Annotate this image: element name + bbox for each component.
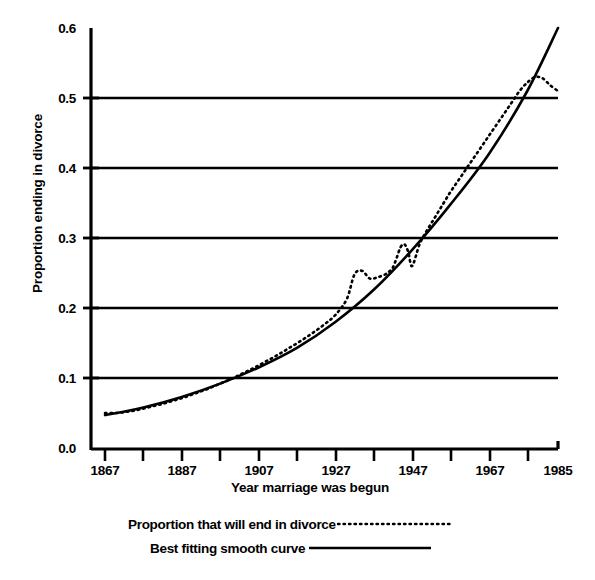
x-tick-label-1907: 1907: [229, 463, 289, 478]
gridlines: [91, 98, 558, 378]
legend-item-smooth-curve: Best fitting smooth curve: [100, 536, 530, 560]
chart-page: 0.6 0.5 0.4 0.3 0.2 0.1 0.0 1867 1887 19…: [0, 0, 595, 580]
legend-swatch-solid: [305, 542, 435, 554]
x-tick-label-1947: 1947: [383, 463, 443, 478]
series-best-fitting-smooth-curve: [105, 28, 558, 415]
legend-label-proportion: Proportion that will end in divorce: [128, 517, 336, 532]
x-tick-label-1927: 1927: [306, 463, 366, 478]
x-tick-label-1967: 1967: [460, 463, 520, 478]
x-tick-label-1867: 1867: [75, 463, 135, 478]
chart-legend: Proportion that will end in divorce Best…: [100, 512, 530, 560]
y-tick-label-0.1: 0.1: [30, 371, 76, 386]
series-proportion-will-end-in-divorce: [105, 77, 558, 413]
legend-swatch-dotted: [336, 518, 454, 530]
x-tick-label-1887: 1887: [152, 463, 212, 478]
x-axis-title: Year marriage was begun: [150, 480, 470, 495]
legend-item-proportion: Proportion that will end in divorce: [100, 512, 530, 536]
y-axis-title: Proportion ending in divorce: [30, 79, 45, 329]
legend-label-smooth-curve: Best fitting smooth curve: [150, 541, 305, 556]
y-tick-label-0.6: 0.6: [30, 21, 76, 36]
x-tick-marks: [105, 449, 528, 461]
y-tick-label-0.0: 0.0: [30, 441, 76, 456]
x-tick-label-1985: 1985: [528, 463, 588, 478]
